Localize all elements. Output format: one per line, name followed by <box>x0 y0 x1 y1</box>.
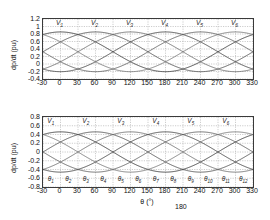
chart-panel-top: dp/dt (pu) 1.210.80.60.40.20-0.2-0.4 -30… <box>0 6 270 104</box>
voltage-vector-label: V2 <box>91 19 98 28</box>
y-tick-label: 0.8 <box>30 113 40 120</box>
y-tick-label: 0.6 <box>30 121 40 128</box>
x-tick-label: 0 <box>58 187 62 194</box>
plot-area-top <box>42 18 254 80</box>
voltage-vector-label: V5 <box>196 19 203 28</box>
x-tick-label: 60 <box>91 187 99 194</box>
voltage-vector-label: V6 <box>222 117 229 126</box>
y-tick-label: 0.8 <box>30 30 40 37</box>
sector-angle-label: θ11 <box>222 175 230 184</box>
y-axis-label-bottom: dp/dt (pu) <box>10 143 17 173</box>
sector-angle-label: θ5 <box>118 175 124 184</box>
voltage-vector-label: V3 <box>117 117 124 126</box>
x-tick-label: 30 <box>73 187 81 194</box>
y-tick-label: 0.4 <box>30 45 40 52</box>
sector-angle-label: θ7 <box>153 175 159 184</box>
x-tick-label: 330 <box>246 79 258 86</box>
x-tick-label: 300 <box>229 79 241 86</box>
y-tick-label: 1 <box>36 22 40 29</box>
x-tick-label: 180 <box>159 187 171 194</box>
voltage-vector-label: V4 <box>161 19 168 28</box>
x-tick-label: -30 <box>37 79 47 86</box>
figure-note: 180 <box>175 203 187 210</box>
y-tick-label: 0 <box>36 148 40 155</box>
x-tick-label: 210 <box>176 187 188 194</box>
x-tick-label: 180 <box>159 79 171 86</box>
voltage-vector-label: V3 <box>126 19 133 28</box>
x-axis-label-bottom: θ (°) <box>140 198 153 205</box>
x-tick-label: 240 <box>194 79 206 86</box>
x-tick-label: 330 <box>246 187 258 194</box>
sector-angle-label: θ6 <box>135 175 141 184</box>
voltage-vector-label: V1 <box>56 19 63 28</box>
y-tick-label: -0.4 <box>28 165 40 172</box>
sector-angle-label: θ4 <box>100 175 106 184</box>
x-tick-label: 300 <box>229 187 241 194</box>
x-tick-label: 270 <box>211 79 223 86</box>
sector-angle-label: θ1 <box>48 175 54 184</box>
x-tick-label: 30 <box>73 79 81 86</box>
chart-panel-bottom: dp/dt (pu) 0.80.60.40.20-0.2-0.4-0.6-0.8… <box>0 108 270 220</box>
y-tick-label: 0.6 <box>30 37 40 44</box>
x-tick-label: 150 <box>141 187 153 194</box>
y-tick-label: 1.2 <box>30 15 40 22</box>
y-axis-label-top: dp/dt (pu) <box>10 40 17 70</box>
sector-angle-label: θ3 <box>83 175 89 184</box>
y-tick-label: -0.2 <box>28 156 40 163</box>
voltage-vector-label: V2 <box>82 117 89 126</box>
voltage-vector-label: V5 <box>187 117 194 126</box>
figure-container: dp/dt (pu) 1.210.80.60.40.20-0.2-0.4 -30… <box>0 0 270 220</box>
y-tick-label: 0.4 <box>30 130 40 137</box>
sector-angle-label: θ2 <box>65 175 71 184</box>
x-tick-label: 60 <box>91 79 99 86</box>
sector-angle-label: θ10 <box>204 175 213 184</box>
sector-angle-label: θ8 <box>170 175 176 184</box>
y-tick-label: 0.2 <box>30 139 40 146</box>
x-tick-label: 0 <box>58 79 62 86</box>
y-tick-label: -0.6 <box>28 174 40 181</box>
x-tick-label: 240 <box>194 187 206 194</box>
x-tick-label: 150 <box>141 79 153 86</box>
x-tick-label: 120 <box>124 187 136 194</box>
x-tick-label: 90 <box>108 187 116 194</box>
x-tick-label: 270 <box>211 187 223 194</box>
y-tick-label: -0.2 <box>28 67 40 74</box>
y-tick-label: 0.2 <box>30 52 40 59</box>
voltage-vector-label: V4 <box>152 117 159 126</box>
voltage-vector-label: V6 <box>231 19 238 28</box>
x-tick-label: 90 <box>108 79 116 86</box>
x-tick-label: 120 <box>124 79 136 86</box>
sector-angle-label: θ9 <box>188 175 194 184</box>
voltage-vector-label: V1 <box>47 117 54 126</box>
plot-svg-top <box>43 19 254 80</box>
x-tick-label: 210 <box>176 79 188 86</box>
sector-angle-label: θ12 <box>239 175 248 184</box>
x-tick-label: -30 <box>37 187 47 194</box>
y-tick-label: 0 <box>36 60 40 67</box>
